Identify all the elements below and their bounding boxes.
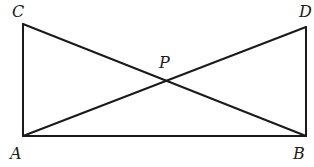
geometry-diagram: C D P A B <box>0 0 314 167</box>
label-p: P <box>158 53 170 72</box>
label-b: B <box>292 144 305 163</box>
label-c: C <box>12 2 24 21</box>
label-d: D <box>298 2 312 21</box>
label-a: A <box>8 144 22 163</box>
